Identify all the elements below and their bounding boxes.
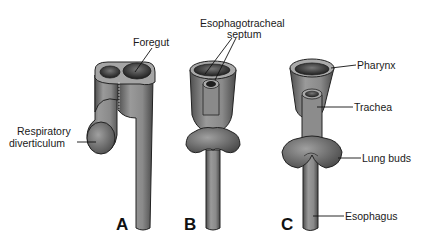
panel-letter-a: A — [116, 215, 128, 235]
label-pharynx: Pharynx — [357, 59, 396, 71]
label-respiratory-line1: Respiratory — [17, 125, 71, 137]
label-septum-line2: septum — [227, 28, 261, 40]
diagram-illustration — [0, 0, 429, 243]
panel-letter-b: B — [184, 215, 196, 235]
label-foregut: Foregut — [133, 36, 169, 48]
label-trachea: Trachea — [354, 101, 392, 113]
label-esophagus: Esophagus — [345, 210, 398, 222]
label-lung-buds: Lung buds — [362, 152, 411, 164]
panel-b-structure — [186, 61, 240, 230]
embryology-diagram: Foregut Respiratory diverticulum A Esoph… — [0, 0, 429, 243]
panel-letter-c: C — [281, 215, 293, 235]
panel-a-structure — [87, 62, 155, 230]
panel-c-structure — [282, 59, 342, 231]
label-respiratory-line2: diverticulum — [9, 137, 65, 149]
pharynx-leader-line — [331, 65, 356, 68]
